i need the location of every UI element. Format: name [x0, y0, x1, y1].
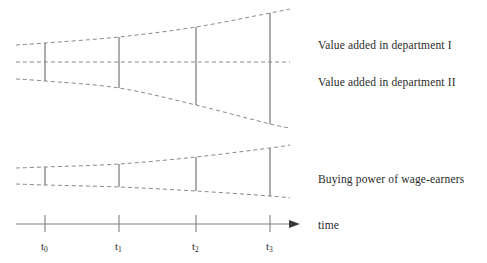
- curve-value-added-dept-two: [16, 79, 290, 128]
- time-axis-group: [16, 215, 300, 232]
- label-buying-power-of-wage-earners: Buying power of wage-earners: [318, 174, 464, 186]
- label-time-axis: time: [318, 220, 339, 232]
- time-tick-label-t3: t3: [266, 241, 273, 252]
- figure-canvas: Value added in department I Value added …: [0, 0, 487, 263]
- time-tick-label-t2: t2: [192, 241, 199, 252]
- curve-buying-power-lower: [16, 184, 290, 198]
- upper-band-bars: [45, 13, 270, 124]
- label-value-added-department-two: Value added in department II: [318, 77, 456, 89]
- time-tick-label-t0: t0: [41, 241, 48, 252]
- time-axis-arrow-icon: [289, 220, 300, 228]
- upper-band-group: [16, 9, 290, 128]
- curve-value-added-dept-one: [16, 9, 290, 45]
- time-tick-label-t1: t1: [115, 241, 122, 252]
- lower-band-group: [16, 145, 290, 198]
- curve-buying-power-upper: [16, 145, 290, 168]
- label-value-added-department-one: Value added in department I: [318, 40, 452, 52]
